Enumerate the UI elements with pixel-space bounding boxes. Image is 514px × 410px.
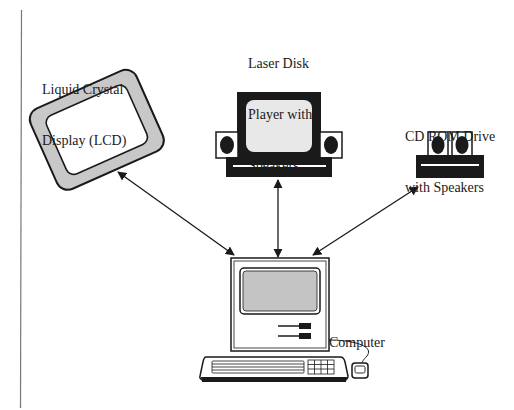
laser-label-line2: Player with: [248, 106, 312, 123]
arrow-lcd-computer: [118, 172, 234, 255]
arrow-cdrom-computer: [313, 187, 418, 255]
cdrom-label-line2: with Speakers: [405, 179, 495, 196]
cd-rom-label: CD ROM Drive with Speakers: [405, 94, 495, 213]
laser-label-line1: Laser Disk: [248, 55, 312, 72]
margin-line: [21, 10, 22, 408]
lcd-label-line2: Display (LCD): [42, 132, 126, 149]
computer-label-line1: Computer: [329, 334, 385, 351]
cdrom-label-line1: CD ROM Drive: [405, 128, 495, 145]
laser-disk-label: Laser Disk Player with Speakers: [248, 21, 312, 191]
laser-label-line3: Speakers: [248, 157, 312, 174]
lcd-label-line1: Liquid Crystal: [42, 81, 126, 98]
lcd-label: Liquid Crystal Display (LCD): [42, 47, 126, 166]
computer-label: Computer: [329, 300, 385, 368]
